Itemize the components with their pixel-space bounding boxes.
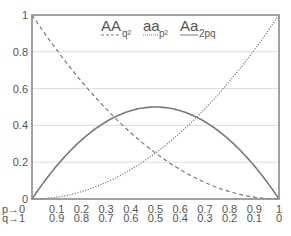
- legend-label: aa: [143, 17, 160, 34]
- x-tick-label-q: 0.2: [222, 212, 237, 224]
- x-tick-label-q: q→1: [2, 212, 25, 224]
- y-tick-label: 0.8: [13, 46, 28, 58]
- legend-label: Aa: [180, 17, 199, 34]
- legend-item-aa-homozygous-dominant: AA q²: [101, 17, 132, 39]
- series-lines: [32, 15, 279, 199]
- x-tick-label-q: 0.5: [148, 212, 163, 224]
- y-tick-label: 0.6: [13, 83, 28, 95]
- legend-subscript: p²: [159, 28, 169, 39]
- x-tick-label-q: 0.3: [197, 212, 212, 224]
- series-line-aa-solid: [32, 107, 279, 199]
- legend-label: AA: [101, 17, 121, 34]
- legend-item-aa-heterozygous: Aa 2pq: [180, 17, 216, 39]
- legend-subscript: 2pq: [199, 28, 216, 39]
- y-tick-label: 1: [22, 9, 28, 21]
- legend-item-aa-homozygous-recessive: aa p²: [143, 17, 169, 39]
- x-tick-label-q: 0: [276, 212, 282, 224]
- x-axis-tick-labels: p→0q→10.10.90.20.80.30.70.40.60.50.50.60…: [2, 203, 282, 224]
- legend-subscript: q²: [122, 28, 132, 39]
- x-tick-label-q: 0.4: [173, 212, 188, 224]
- x-tick-label-q: 0.9: [49, 212, 64, 224]
- y-tick-label: 0.2: [13, 156, 28, 168]
- legend: AA q² aa p² Aa 2pq: [101, 17, 216, 39]
- genotype-frequency-chart: 00.20.40.60.81 p→0q→10.10.90.20.80.30.70…: [0, 0, 291, 236]
- y-tick-label: 0.4: [13, 119, 28, 131]
- x-tick-label-q: 0.8: [74, 212, 89, 224]
- x-tick-label-q: 0.1: [247, 212, 262, 224]
- y-axis-tick-labels: 00.20.40.60.81: [13, 9, 28, 205]
- x-tick-label-q: 0.6: [123, 212, 138, 224]
- x-tick-label-q: 0.7: [98, 212, 113, 224]
